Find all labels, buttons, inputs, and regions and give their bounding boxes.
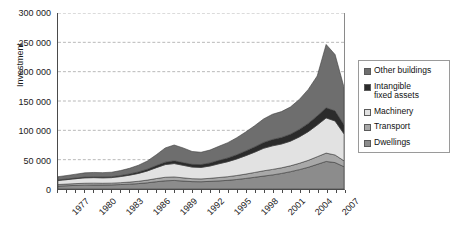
x-axis-tick-label: 1983 — [124, 196, 145, 217]
x-axis-tick — [84, 190, 85, 193]
x-axis-tick — [201, 190, 202, 193]
legend-swatch-icon — [364, 140, 371, 147]
x-axis-tick — [246, 190, 247, 193]
legend-item[interactable]: Transport — [364, 122, 445, 132]
x-axis-tick — [138, 190, 139, 193]
legend-swatch-icon — [364, 84, 371, 91]
x-axis-tick — [129, 190, 130, 193]
x-axis-tick — [219, 190, 220, 193]
x-axis-tick — [309, 190, 310, 193]
x-axis-tick — [336, 190, 337, 193]
legend-item[interactable]: Other buildings — [364, 66, 445, 76]
x-axis-tick — [165, 190, 166, 193]
x-axis-tick — [210, 190, 211, 193]
legend-swatch-icon — [364, 68, 371, 75]
x-axis-tick-label: 1992 — [205, 196, 226, 217]
x-axis-tick-label: 1980 — [97, 196, 118, 217]
legend-item-label: Dwellings — [374, 138, 410, 148]
x-axis-tick — [228, 190, 229, 193]
x-axis-tick — [318, 190, 319, 193]
x-axis-tick — [174, 190, 175, 193]
x-axis-tick — [291, 190, 292, 193]
x-axis-tick — [345, 190, 346, 193]
x-axis-tick — [237, 190, 238, 193]
legend-item[interactable]: Dwellings — [364, 138, 445, 148]
x-axis-tick — [282, 190, 283, 193]
x-axis-tick-label: 1977 — [70, 196, 91, 217]
x-axis-tick — [102, 190, 103, 193]
x-axis-tick — [75, 190, 76, 193]
x-axis-tick — [183, 190, 184, 193]
legend-item-label: Intangiblefixed assets — [374, 82, 419, 101]
legend-swatch-icon — [364, 109, 371, 116]
x-axis-tick — [57, 190, 58, 193]
x-axis-tick-label: 1995 — [232, 196, 253, 217]
legend-item-label: Other buildings — [374, 66, 431, 76]
legend-item-label: Machinery — [374, 107, 413, 117]
x-axis-tick — [156, 190, 157, 193]
legend-item[interactable]: Machinery — [364, 107, 445, 117]
x-axis-tick — [192, 190, 193, 193]
x-axis-tick — [93, 190, 94, 193]
legend-item-label: Transport — [374, 122, 410, 132]
legend-swatch-icon — [364, 124, 371, 131]
x-axis-tick — [120, 190, 121, 193]
chart-legend: Other buildingsIntangiblefixed assetsMac… — [358, 60, 450, 153]
x-axis-tick-label: 1989 — [178, 196, 199, 217]
x-axis-tick — [147, 190, 148, 193]
legend-item[interactable]: Intangiblefixed assets — [364, 82, 445, 101]
x-axis-tick-label: 2007 — [340, 196, 361, 217]
x-axis-tick-label: 1986 — [151, 196, 172, 217]
x-axis-tick — [66, 190, 67, 193]
x-axis-tick-label: 2001 — [286, 196, 307, 217]
x-axis-tick — [264, 190, 265, 193]
x-axis-tick-label: 1998 — [259, 196, 280, 217]
investment-stacked-area-chart: Investment 300 000250 000200 000150 0001… — [0, 0, 455, 236]
x-axis-tick — [300, 190, 301, 193]
x-axis-tick-label: 2004 — [313, 196, 334, 217]
x-axis-tick — [111, 190, 112, 193]
x-axis-tick — [255, 190, 256, 193]
x-axis-tick — [273, 190, 274, 193]
x-axis-tick — [327, 190, 328, 193]
